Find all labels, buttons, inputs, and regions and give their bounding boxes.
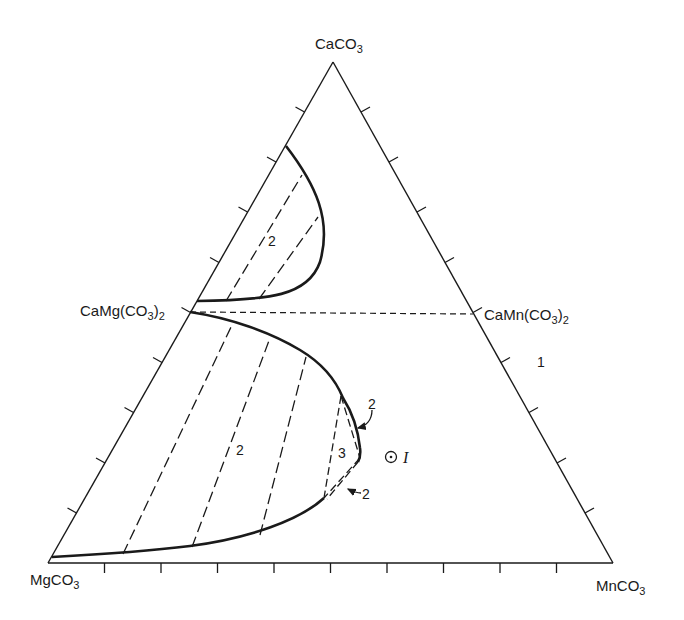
region-label-two-phase-arrow-lower: 2 <box>362 487 370 501</box>
vertex-label-mgco3: MgCO3 <box>30 572 79 591</box>
composition-point-icon <box>386 452 397 463</box>
region-label-three-phase: 3 <box>338 446 346 460</box>
subscript: 3 <box>639 585 645 597</box>
formula-text: CaMn(CO <box>484 306 552 323</box>
formula-text: MnCO <box>596 577 639 594</box>
vertex-label-mnco3: MnCO3 <box>596 578 645 597</box>
upper-solvus-curve <box>197 146 324 301</box>
region-label-two-phase-arrow-upper: 2 <box>368 397 376 411</box>
subscript: 3 <box>357 43 363 55</box>
arrow-lower-two-phase <box>348 489 361 493</box>
region-label-two-phase-lower: 2 <box>236 443 244 457</box>
subscript: 3 <box>73 579 79 591</box>
lower-solvus-lower-branch <box>52 498 324 557</box>
region-label-two-phase-upper: 2 <box>268 234 276 248</box>
bottom-edge-ticks <box>105 563 557 573</box>
lower-tie-lines <box>123 325 306 554</box>
point-label-i: I <box>403 450 408 466</box>
arrow-upper-two-phase <box>358 410 372 428</box>
subscript: 2 <box>563 314 569 326</box>
lower-solvus-upper-branch <box>190 312 360 462</box>
formula-text: MgCO <box>30 571 73 588</box>
compound-label-kutnohorite: CaMn(CO3)2 <box>484 307 569 326</box>
dolomite-kutnohorite-join <box>190 312 473 314</box>
formula-text: CaCO <box>315 35 357 52</box>
vertex-label-caco3: CaCO3 <box>315 36 363 55</box>
compound-label-dolomite: CaMg(CO3)2 <box>80 303 165 322</box>
region-label-single-phase: 1 <box>537 355 545 369</box>
formula-text: CaMg(CO <box>80 302 148 319</box>
subscript: 2 <box>159 310 165 322</box>
